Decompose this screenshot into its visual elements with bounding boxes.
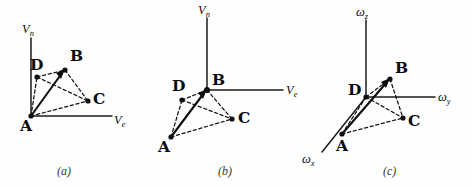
panel-b-label-a: A [157, 137, 171, 156]
panel-c-caption: (c) [383, 164, 396, 178]
panel-a-vector-ab [31, 73, 62, 116]
panel-c-vertex-b [387, 76, 392, 81]
panel-c-vertex-d [363, 94, 368, 99]
panel-a-axis-label-ve: Ve [114, 113, 126, 129]
panel-b-edge-ad [171, 100, 182, 137]
panel-b-vertex-b [204, 87, 210, 93]
panel-a-label-d: D [30, 55, 43, 74]
panel-c-vertex-c [400, 115, 405, 120]
panel-b-vector-ab [171, 93, 204, 137]
panel-c-label-b: B [395, 58, 408, 77]
panel-a-caption: (a) [57, 164, 71, 178]
panel-b-label-c: C [238, 108, 250, 127]
panel-b-label-b: B [212, 70, 225, 89]
panel-a-edge-bc [65, 70, 88, 101]
panel-c-axis-label-wx: ωx [302, 152, 315, 168]
panel-b-vertex-d [179, 97, 184, 102]
panel-b-axis-label-ve: Ve [286, 83, 298, 99]
panel-c-edge-ac [342, 118, 403, 134]
panel-c-axis-label-wz: ωz [356, 5, 369, 21]
figure-root: A B C D Vn Ve (a) [0, 0, 471, 187]
panel-b-axis-label-vn: Vn [198, 3, 210, 19]
panel-a-vertex-b [62, 67, 67, 72]
panel-c-label-c: C [408, 111, 420, 130]
panel-a-vertex-c [85, 98, 90, 103]
panel-b-vertex-c [229, 116, 234, 121]
panel-b-edge-ac [171, 119, 232, 137]
panel-b-caption: (b) [218, 164, 232, 178]
panel-a-axis-label-vn: Vn [22, 22, 34, 38]
panel-a-vertex-d [34, 74, 39, 79]
panel-b: A B C D Vn Ve (b) [150, 0, 310, 187]
panel-c-label-a: A [335, 136, 349, 155]
panel-c-label-d: D [348, 80, 361, 99]
panel-a: A B C D Vn Ve (a) [0, 0, 160, 187]
panel-b-label-d: D [172, 76, 185, 95]
panel-a-label-a: A [19, 116, 33, 135]
panel-c: A B C D ωz ωy ωx (c) [300, 0, 471, 187]
panel-c-axis-label-wy: ωy [438, 90, 451, 106]
panel-a-label-b: B [70, 46, 83, 65]
panel-a-label-c: C [93, 89, 105, 108]
